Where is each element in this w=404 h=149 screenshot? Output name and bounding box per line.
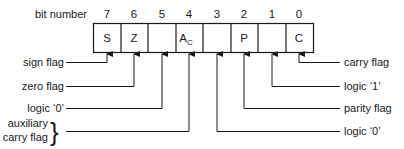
sign-flag-line	[66, 54, 107, 63]
connector-lines	[66, 54, 340, 132]
label-logic0-left: logic ‘0’	[27, 102, 64, 114]
left-labels: sign flag zero flag logic ‘0’ auxiliary …	[3, 56, 64, 147]
bit-number-heading: bit number	[35, 8, 87, 20]
flag-register-diagram: bit number 7 6 5 4 3 2 1 0 S Z AC P C	[0, 0, 404, 149]
label-logic0-right: logic ‘0’	[344, 125, 381, 137]
register-box	[94, 24, 314, 53]
label-carry-flag: carry flag	[344, 56, 389, 68]
bit-number-0: 0	[296, 8, 302, 20]
label-auxiliary: auxiliary	[8, 117, 49, 129]
cell-aux-carry: AC	[179, 32, 193, 47]
carry-flag-line	[299, 54, 340, 63]
label-zero-flag: zero flag	[22, 80, 64, 92]
bit-number-2: 2	[241, 8, 247, 20]
bit-number-4: 4	[186, 8, 193, 20]
cell-sign: S	[103, 32, 111, 44]
label-carry-flag-aux: carry flag	[3, 131, 48, 143]
bit-number-7: 7	[104, 8, 110, 20]
brace-icon: }	[50, 117, 59, 147]
label-logic1: logic ‘1’	[344, 80, 381, 92]
label-parity-flag: parity flag	[344, 102, 392, 114]
logic1-line	[272, 54, 340, 87]
logic0-right-line	[217, 54, 340, 132]
bit-number-3: 3	[214, 8, 220, 20]
bit-number-1: 1	[269, 8, 275, 20]
cell-carry: C	[295, 32, 303, 44]
aux-carry-line	[66, 54, 189, 132]
label-sign-flag: sign flag	[23, 56, 64, 68]
zero-flag-line	[66, 54, 134, 87]
right-labels: carry flag logic ‘1’ parity flag logic ‘…	[344, 56, 392, 137]
bit-number-5: 5	[159, 8, 165, 20]
cell-zero: Z	[130, 32, 137, 44]
bit-numbers: 7 6 5 4 3 2 1 0	[104, 8, 302, 20]
bit-number-6: 6	[131, 8, 137, 20]
cell-parity: P	[240, 32, 248, 44]
